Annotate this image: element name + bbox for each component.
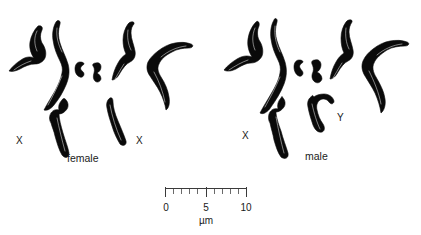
chromosome-upper-left-outer — [224, 21, 263, 71]
scale-tick-label-5: 5 — [203, 203, 209, 213]
female-chromosomes-svg — [0, 0, 200, 180]
chromosome-upper-left-outer — [9, 26, 46, 72]
scale-bar-axis — [165, 186, 247, 202]
chromosome-upper-right-outer — [147, 42, 193, 110]
female-chromosome-spread: X X female — [0, 0, 200, 180]
chromosome-upper-right-outer — [362, 40, 409, 113]
male-x-label: X — [242, 131, 249, 141]
male-caption: male — [305, 151, 328, 162]
chromosome-figure: X X female — [0, 0, 421, 235]
chromosome-central-small-left — [75, 62, 84, 77]
chromosome-upper-left-inner — [44, 21, 69, 111]
chromosome-upper-right-inner — [112, 22, 135, 80]
chromosome-y — [308, 94, 334, 132]
female-x-label-right: X — [136, 136, 143, 146]
female-x-label-left: X — [16, 136, 23, 146]
male-chromosome-spread: X Y male — [215, 0, 415, 180]
scale-tick-label-0: 0 — [163, 203, 169, 213]
chromosome-central-small-left — [294, 60, 303, 76]
chromosome-x-left — [50, 99, 70, 158]
chromosome-x-right — [107, 98, 127, 146]
female-caption: female — [67, 153, 99, 164]
chromosome-upper-right-inner — [330, 20, 353, 79]
scale-tick-label-10: 10 — [240, 203, 251, 213]
chromosome-central-small-right — [312, 60, 322, 83]
male-y-label: Y — [337, 113, 344, 123]
scale-bar: 0 5 10 µm — [165, 186, 247, 232]
scale-unit-label: µm — [199, 216, 213, 226]
chromosome-central-small-right — [93, 63, 101, 82]
